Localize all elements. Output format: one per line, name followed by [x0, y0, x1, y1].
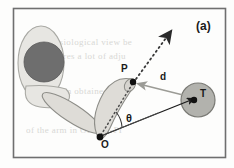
label-point-o: O [101, 139, 109, 150]
panel-label: (a) [196, 19, 211, 33]
label-point-t: T [200, 88, 206, 99]
target-circle [181, 83, 215, 117]
label-distance-d: d [160, 71, 166, 82]
label-point-p: P [121, 63, 128, 74]
head-circle [24, 42, 64, 82]
kinematics-diagram: the physiological view be ples requires … [0, 0, 234, 168]
label-angle-theta: θ [126, 112, 132, 124]
figure-panel: the physiological view be ples requires … [0, 0, 234, 168]
point-t-marker [191, 97, 197, 103]
point-p-marker [130, 79, 136, 85]
